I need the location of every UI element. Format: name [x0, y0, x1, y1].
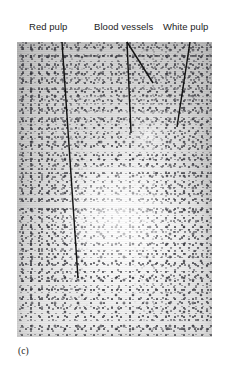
annotation-label-blood-vessels: Blood vessels — [94, 21, 153, 33]
panel-caption: (c) — [18, 346, 29, 356]
annotation-label-white-pulp: White pulp — [163, 21, 208, 33]
plate-vignette — [17, 42, 212, 337]
figure-panel: Red pulp Blood vessels White pulp (c) — [0, 0, 229, 372]
annotation-label-red-pulp: Red pulp — [29, 21, 67, 33]
spleen-micrograph-image — [17, 42, 212, 337]
